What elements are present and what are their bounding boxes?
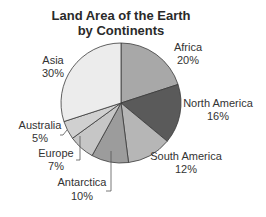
chart-title-line-1: Land Area of the Earth [52,8,191,23]
slice-label-australia: Australia [19,119,63,131]
slice-label-south-america: South America [150,150,222,162]
slice-value-africa: 20% [177,54,199,66]
slice-value-south-america: 12% [175,163,197,175]
slice-value-north-america: 16% [207,110,229,122]
slice-label-africa: Africa [174,41,203,53]
slice-value-europe: 7% [48,160,64,172]
slice-label-north-america: North America [183,97,254,109]
slice-value-antarctica: 10% [71,190,93,202]
slice-label-antarctica: Antarctica [58,176,108,188]
pie-slices [61,43,181,163]
slice-value-australia: 5% [32,132,48,144]
slice-value-asia: 30% [42,67,64,79]
pie-chart: Land Area of the Earth by Continents Afr… [0,0,266,217]
slice-label-asia: Asia [42,54,64,66]
chart-title-line-2: by Continents [78,23,165,38]
slice-label-europe: Europe [38,147,73,159]
